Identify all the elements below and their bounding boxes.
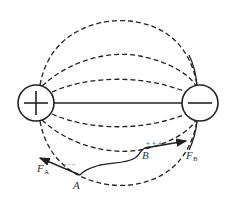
field-line-bottom-inner [52, 114, 186, 127]
label-point-b: B [142, 149, 149, 161]
induced-minus-signs: - - - [64, 160, 76, 167]
svg-text:A: A [44, 168, 49, 176]
field-line-bottom-outer [40, 121, 197, 185]
field-line-top-middle [42, 54, 196, 86]
svg-text:B: B [193, 155, 198, 163]
svg-text:F: F [185, 149, 193, 161]
field-line-top-outer [40, 21, 197, 85]
field-line-top-inner [52, 79, 186, 92]
negative-charge [182, 85, 218, 121]
field-diagram: - - - + + + A B F A F B [0, 0, 236, 201]
label-force-a: F A [36, 162, 49, 176]
svg-text:F: F [36, 162, 44, 174]
label-point-a: A [72, 179, 80, 191]
label-force-b: F B [185, 149, 198, 163]
positive-charge [18, 85, 54, 121]
field-line-bottom-middle [42, 120, 196, 151]
induced-plus-signs: + + + [146, 140, 162, 147]
